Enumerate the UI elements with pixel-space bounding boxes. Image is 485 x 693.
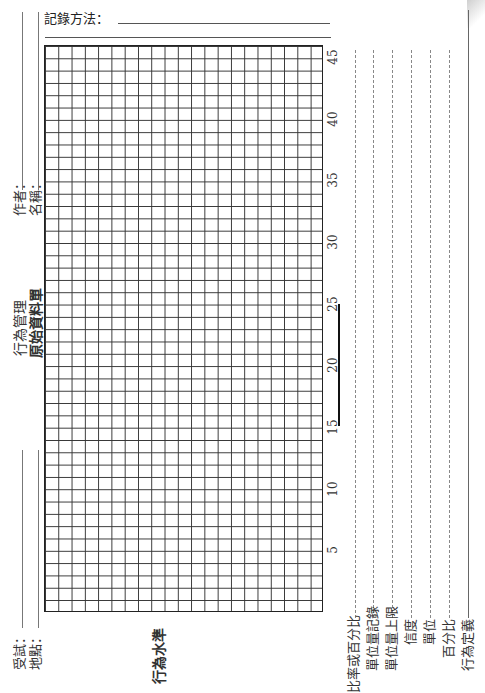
rate-percent-label: 比率或百分比 bbox=[347, 615, 361, 693]
location-field[interactable] bbox=[38, 450, 39, 628]
tick-10: 10 bbox=[327, 479, 339, 499]
unit-record-label: 單位量記錄 bbox=[366, 606, 380, 671]
unit-field[interactable] bbox=[430, 50, 431, 618]
tick-40: 40 bbox=[327, 109, 339, 129]
unit-limit-label: 單位量上限 bbox=[385, 606, 399, 671]
tick-5: 5 bbox=[327, 540, 339, 560]
location-label: 地點： bbox=[29, 631, 43, 670]
tick-45: 45 bbox=[327, 47, 339, 67]
unit-record-field[interactable] bbox=[373, 50, 374, 618]
behavior-definition-field[interactable] bbox=[468, 10, 469, 618]
recording-method-field-line2[interactable] bbox=[45, 37, 331, 38]
behavior-definition-label: 行為定義 bbox=[461, 619, 475, 671]
recording-method-field[interactable] bbox=[118, 23, 330, 24]
author-field[interactable] bbox=[22, 12, 23, 190]
unit-limit-field[interactable] bbox=[392, 50, 393, 618]
percent-field[interactable] bbox=[449, 50, 450, 618]
name-field[interactable] bbox=[38, 12, 39, 190]
subject-label: 受試： bbox=[13, 631, 27, 670]
name-label: 名稱： bbox=[29, 177, 43, 216]
axis-label: 行為水準 bbox=[152, 628, 166, 684]
unit-label: 單位 bbox=[423, 619, 437, 645]
reliability-field[interactable] bbox=[411, 50, 412, 618]
tick-35: 35 bbox=[327, 170, 339, 190]
page-corner-shadow bbox=[467, 0, 485, 28]
range-bracket bbox=[338, 304, 340, 426]
percent-label: 百分比 bbox=[442, 619, 456, 658]
data-grid[interactable] bbox=[44, 45, 323, 612]
author-label: 作者： bbox=[13, 177, 27, 216]
rate-percent-field[interactable] bbox=[355, 50, 356, 618]
reliability-label: 信度 bbox=[404, 619, 418, 645]
tick-30: 30 bbox=[327, 232, 339, 252]
subject-field[interactable] bbox=[22, 450, 23, 628]
recording-method-label: 記錄方法： bbox=[44, 8, 109, 27]
title-sub: 原始資料單 bbox=[29, 288, 43, 358]
title-main: 行為管理 bbox=[13, 300, 27, 356]
